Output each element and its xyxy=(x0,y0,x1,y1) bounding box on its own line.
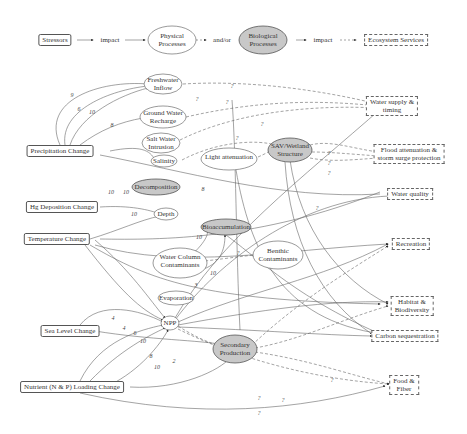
service-water-quality: Water quality xyxy=(387,188,433,200)
service-recreation: Recreation xyxy=(392,238,430,250)
edge-label: 4 xyxy=(112,315,115,321)
node-freshwater-inflow: Freshwater Inflow xyxy=(147,76,178,92)
stressor-precipitation-change: Precipitation Change xyxy=(27,145,94,157)
edge-label: ? xyxy=(231,83,234,89)
edge-label: ? xyxy=(328,170,331,176)
node-salt-water-intrusion: Salt Water Intrusion xyxy=(146,135,175,151)
edge-label: 10 xyxy=(108,189,114,195)
legend-andor-label: and/or xyxy=(213,36,231,44)
edge-label: 10 xyxy=(154,364,160,370)
stressor-nutrient-loading-change: Nutrient (N & P) Loading Change xyxy=(20,381,124,393)
edge-label: ? xyxy=(328,160,331,166)
edge-label: ? xyxy=(282,397,285,403)
legend-stressors-box: Stressors xyxy=(38,34,71,46)
stressor-hg-deposition-change: Hg Deposition Change xyxy=(26,201,98,213)
service-carbon-sequestration: Carbon sequestration xyxy=(371,330,438,342)
legend-impact-label-2: impact xyxy=(313,36,332,44)
edge-label: 8 xyxy=(111,122,114,128)
node-npp: NPP xyxy=(164,319,177,327)
node-bioaccumulation: Bioaccumulation xyxy=(202,223,250,231)
node-decomposition: Decomposition xyxy=(135,183,178,191)
node-secondary-production: Secondary Production xyxy=(220,341,251,357)
edge-label: ? xyxy=(226,99,229,105)
edge-label: ? xyxy=(328,150,331,156)
edge-label: 10 xyxy=(196,234,202,240)
edge-label: 2 xyxy=(173,358,176,364)
diagram-canvas xyxy=(0,0,467,434)
edge-label: 6 xyxy=(134,330,137,336)
legend-impact-label: impact xyxy=(100,36,119,44)
legend-physical-processes: Physical Processes xyxy=(158,32,185,48)
edge-label: 8 xyxy=(202,186,205,192)
edge-label: 10 xyxy=(140,338,146,344)
edge-label: 3 xyxy=(195,282,198,288)
service-water-supply-timing: Water supply & timing xyxy=(366,96,418,116)
edge-label: 9 xyxy=(71,92,74,98)
node-salinity: Salinity xyxy=(153,157,175,165)
stressor-temperature-change: Temperature Change xyxy=(24,233,90,245)
edge-label: 10 xyxy=(131,211,137,217)
edge-label: ? xyxy=(196,96,199,102)
legend-ecosystem-services: Ecosystem Services xyxy=(364,34,428,46)
legend-biological-processes: Biological Processes xyxy=(248,32,277,48)
node-water-column-contaminants: Water Column Contaminants xyxy=(160,253,201,269)
node-evaporation: Evaporation xyxy=(159,294,193,302)
node-benthic-contaminants: Benthic Contaminants xyxy=(259,247,298,263)
node-sav-wetland-structure: SAV/Wetland Structure xyxy=(271,142,309,158)
service-flood-attenuation: Flood attenuation & storm surge protecti… xyxy=(374,144,445,164)
edge-label: 10 xyxy=(123,189,129,195)
edge-label: ? xyxy=(331,377,334,383)
edge-label: 4 xyxy=(123,325,126,331)
service-food-fiber: Food & Fiber xyxy=(389,375,419,395)
edge-label: 8 xyxy=(150,353,153,359)
edge-label: 6 xyxy=(78,106,81,112)
service-habitat-biodiversity: Habitat & Biodiversity xyxy=(391,296,434,316)
edge-label: ? xyxy=(236,135,239,141)
edge-label: 10 xyxy=(89,109,95,115)
edge-label: ? xyxy=(258,395,261,401)
node-depth: Depth xyxy=(157,210,174,218)
edge-label: ? xyxy=(316,205,319,211)
node-light-attenuation: Light attenuation xyxy=(205,153,253,161)
edge-label: 10 xyxy=(210,270,216,276)
edge-label: ? xyxy=(258,410,261,416)
node-ground-water-recharge: Ground Water Recharge xyxy=(143,109,183,125)
stressor-sea-level-change: Sea Level Change xyxy=(41,325,100,337)
edge-label: ? xyxy=(237,250,240,256)
edge-label: ? xyxy=(261,121,264,127)
